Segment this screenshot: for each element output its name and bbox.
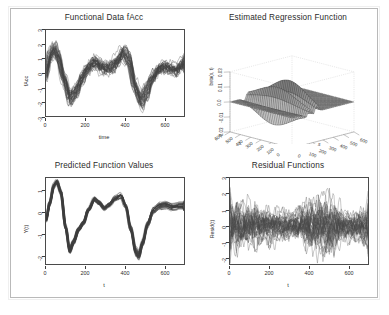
x-tick-label: 400	[121, 122, 130, 128]
panel-residual-functions: Residual Functions Resid(t) -2-10123 020…	[198, 160, 378, 302]
data-curve	[46, 183, 184, 253]
panel-estimated-regression-function: Estimated Regression Function beta(s, t)…	[198, 12, 378, 154]
y-tick-label: 0	[221, 226, 227, 229]
panel-title-functional-data: Functional Data fAcc	[14, 13, 194, 22]
panel-title-predicted-function-values: Predicted Function Values	[14, 161, 194, 170]
s-tick-mark	[344, 135, 349, 138]
data-curve	[46, 182, 184, 256]
data-curve	[46, 180, 184, 260]
data-curve	[46, 182, 184, 258]
data-curve	[46, 183, 184, 250]
x-tick-label: 200	[81, 122, 90, 128]
data-curve	[46, 181, 184, 257]
t-tick-label: 200	[255, 144, 264, 153]
curves-predicted	[46, 178, 184, 264]
data-curve	[46, 184, 184, 254]
x-tick-mark	[45, 266, 46, 269]
x-tick-label: 200	[265, 270, 274, 276]
data-curve	[46, 47, 184, 105]
y-tick-label: -2	[37, 256, 43, 261]
data-curve	[46, 181, 184, 255]
x-tick-mark	[229, 266, 230, 269]
x-tick-label: 600	[345, 270, 354, 276]
data-curve	[46, 183, 184, 254]
x-tick-mark	[165, 118, 166, 121]
x-tick-label: 600	[161, 270, 170, 276]
data-curve	[46, 181, 184, 253]
y-axis-label-resid: Resid(t)	[209, 207, 215, 251]
data-curve	[46, 182, 184, 256]
y-tick-label: -1	[37, 88, 43, 93]
x-tick-label: 400	[121, 270, 130, 276]
data-curve	[46, 183, 184, 255]
data-curve	[46, 181, 184, 258]
x-axis-label-t-residual: t	[198, 282, 378, 288]
data-curve	[46, 180, 184, 257]
x-tick-mark	[85, 266, 86, 269]
data-curve	[46, 180, 184, 255]
y-tick-label: 3	[221, 177, 227, 180]
plot-area-residual-functions	[229, 177, 369, 265]
figure-root: Functional Data fAcc fAcc -3-2-10123 020…	[0, 0, 389, 315]
x-tick-mark	[125, 118, 126, 121]
data-curve	[46, 185, 184, 252]
x-axis-label-t-predicted: t	[14, 282, 194, 288]
y-tick-label: 1	[37, 58, 43, 61]
x-tick-mark	[45, 118, 46, 121]
x-tick-label: 200	[81, 270, 90, 276]
surface-plot-area	[206, 26, 378, 144]
panel-predicted-function-values: Predicted Function Values Y(t) -2-101 02…	[14, 160, 194, 302]
data-curve	[46, 182, 184, 254]
axis-label-s: s	[317, 141, 321, 148]
x-tick-mark	[165, 266, 166, 269]
y-tick-label: 2	[37, 44, 43, 47]
t-tick-mark	[266, 143, 271, 144]
data-curve	[46, 183, 184, 252]
s-tick-mark	[333, 137, 338, 140]
data-curve	[46, 180, 184, 260]
x-tick-mark	[309, 266, 310, 269]
y-axis-label-facc: fAcc	[23, 61, 29, 101]
data-curve	[46, 179, 184, 257]
y-tick-label: -2	[37, 102, 43, 107]
data-curve	[46, 182, 184, 254]
x-tick-label: 0	[228, 270, 231, 276]
data-curve	[46, 180, 184, 257]
x-tick-mark	[269, 266, 270, 269]
s-tick-mark	[354, 132, 359, 135]
data-curve	[46, 181, 184, 259]
data-curve	[46, 181, 184, 257]
data-curve	[46, 182, 184, 253]
data-curve	[46, 183, 184, 256]
y-axis-label-yt: Y(t)	[23, 209, 29, 249]
panel-title-estimated-regression-function: Estimated Regression Function	[198, 13, 378, 22]
t-tick-label: 100	[265, 147, 274, 156]
curves-functional-data	[46, 30, 184, 116]
y-tick-label: -2	[221, 258, 227, 263]
t-tick-mark	[235, 135, 240, 138]
data-curve	[46, 182, 184, 256]
x-tick-label: 600	[161, 122, 170, 128]
x-tick-label: 0	[44, 270, 47, 276]
y-tick-label: 0	[37, 73, 43, 76]
x-axis-label-time: time	[14, 134, 194, 140]
data-curve	[46, 181, 184, 257]
x-tick-mark	[85, 118, 86, 121]
data-curve	[46, 183, 184, 257]
y-tick-label: 1	[37, 190, 43, 193]
plot-area-functional-data	[45, 29, 185, 117]
data-curve	[46, 182, 184, 256]
x-tick-mark	[349, 266, 350, 269]
x-tick-mark	[125, 266, 126, 269]
data-curve	[46, 180, 184, 257]
data-curve	[46, 181, 184, 255]
data-curve	[46, 179, 184, 258]
data-curve	[46, 183, 184, 252]
t-tick-mark	[256, 140, 261, 143]
data-curve	[46, 182, 184, 257]
y-tick-label: 1	[221, 210, 227, 213]
panel-title-residual-functions: Residual Functions	[198, 161, 378, 170]
t-tick-mark	[225, 132, 230, 135]
curves-residual	[230, 178, 368, 264]
x-tick-label: 0	[44, 122, 47, 128]
